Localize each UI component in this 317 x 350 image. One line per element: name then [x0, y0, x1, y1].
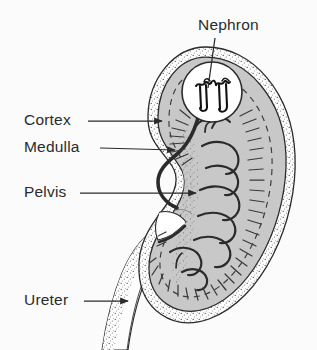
nephron-inset: [182, 62, 242, 122]
label-cortex: Cortex: [24, 111, 71, 128]
nephron-inset-circle: [182, 62, 242, 122]
label-nephron: Nephron: [198, 16, 259, 33]
label-ureter: Ureter: [24, 291, 68, 308]
kidney-diagram: Nephron Cortex Medulla Pelvis Ureter: [0, 0, 317, 350]
label-medulla: Medulla: [24, 138, 80, 155]
label-pelvis: Pelvis: [24, 183, 67, 200]
